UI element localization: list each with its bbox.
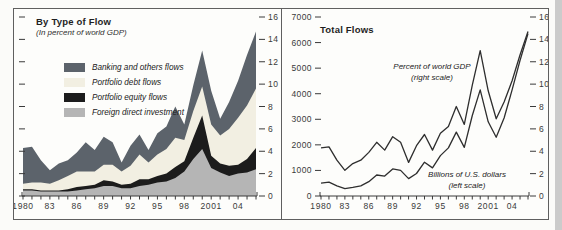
left-chart-title: By Type of Flow <box>36 16 111 27</box>
svg-text:04: 04 <box>233 201 244 211</box>
svg-text:4: 4 <box>539 146 544 156</box>
left-chart-subtitle: (In percent of world GDP) <box>36 28 127 37</box>
svg-text:95: 95 <box>152 201 163 211</box>
legend-label: Portfolio equity flows <box>92 93 167 102</box>
annotation-line: (right scale) <box>370 72 494 83</box>
svg-text:95: 95 <box>435 201 446 211</box>
svg-text:12: 12 <box>268 57 278 67</box>
svg-text:89: 89 <box>387 201 398 211</box>
svg-text:98: 98 <box>459 201 470 211</box>
svg-text:2000: 2000 <box>291 140 312 150</box>
legend-label: Portfolio debt flows <box>92 78 161 87</box>
svg-text:10: 10 <box>539 79 548 89</box>
svg-text:83: 83 <box>45 201 56 211</box>
svg-text:86: 86 <box>71 201 82 211</box>
svg-text:4: 4 <box>268 146 273 156</box>
svg-text:98: 98 <box>179 201 190 211</box>
svg-text:10: 10 <box>268 79 278 89</box>
svg-text:6000: 6000 <box>291 38 312 48</box>
legend-item-fdi: Foreign direct investment <box>64 105 184 120</box>
legend: Banking and others flows Portfolio debt … <box>64 60 184 120</box>
portfolio-debt-swatch <box>64 78 85 87</box>
svg-text:83: 83 <box>340 201 351 211</box>
legend-item-banking: Banking and others flows <box>64 60 184 75</box>
legend-item-portfolio-equity: Portfolio equity flows <box>64 90 184 105</box>
svg-text:0: 0 <box>268 191 273 201</box>
fdi-swatch <box>64 108 85 117</box>
svg-text:14: 14 <box>539 34 548 44</box>
svg-text:04: 04 <box>507 201 518 211</box>
svg-text:6: 6 <box>539 124 544 134</box>
banking-swatch <box>64 63 85 72</box>
x-axis <box>320 192 529 196</box>
svg-text:6: 6 <box>268 124 273 134</box>
svg-text:8: 8 <box>539 102 544 112</box>
svg-text:86: 86 <box>363 201 374 211</box>
legend-label: Foreign direct investment <box>92 108 184 117</box>
annotation-line: (left scale) <box>405 180 529 191</box>
billions-usd-annotation: Billions of U.S. dollars (left scale) <box>405 169 529 191</box>
annotation-line: Percent of world GDP <box>370 61 494 72</box>
svg-text:1000: 1000 <box>291 165 312 175</box>
svg-text:3000: 3000 <box>291 114 312 124</box>
svg-text:2: 2 <box>268 169 273 179</box>
svg-text:0: 0 <box>539 191 544 201</box>
legend-item-portfolio-debt: Portfolio debt flows <box>64 75 184 90</box>
svg-text:8: 8 <box>268 102 273 112</box>
svg-text:92: 92 <box>125 201 136 211</box>
line-0 <box>321 34 528 189</box>
percent-gdp-annotation: Percent of world GDP (right scale) <box>370 61 494 83</box>
svg-text:4000: 4000 <box>291 89 312 99</box>
svg-text:89: 89 <box>98 201 109 211</box>
svg-text:2001: 2001 <box>201 201 222 211</box>
svg-text:12: 12 <box>539 57 548 67</box>
svg-text:7000: 7000 <box>291 12 312 22</box>
page-edge-strip <box>555 0 562 230</box>
line-1 <box>321 32 528 171</box>
svg-text:0: 0 <box>307 191 312 201</box>
portfolio-equity-swatch <box>64 93 85 102</box>
svg-text:2001: 2001 <box>478 201 499 211</box>
svg-text:2: 2 <box>539 169 544 179</box>
svg-text:14: 14 <box>268 34 278 44</box>
svg-text:5000: 5000 <box>291 63 312 73</box>
total-flows-panel: 0100020003000400050006000700002468101214… <box>281 8 549 220</box>
legend-label: Banking and others flows <box>92 63 183 72</box>
svg-text:16: 16 <box>539 12 548 22</box>
right-chart-title: Total Flows <box>320 24 374 35</box>
svg-text:1980: 1980 <box>14 201 34 211</box>
svg-text:16: 16 <box>268 12 278 22</box>
svg-text:92: 92 <box>411 201 422 211</box>
by-type-of-flow-panel: 02468101214161980838689929598200104 By T… <box>13 8 282 220</box>
svg-text:1980: 1980 <box>310 201 331 211</box>
annotation-line: Billions of U.S. dollars <box>405 169 529 180</box>
